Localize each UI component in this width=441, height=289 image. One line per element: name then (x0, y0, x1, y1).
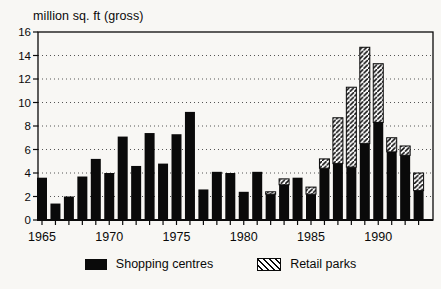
legend: Shopping centres Retail parks (0, 257, 441, 271)
bar-shopping-1993 (414, 191, 424, 220)
y-tick-label-4: 4 (25, 167, 32, 179)
y-tick-label-2: 2 (25, 191, 31, 203)
plot-svg: 0246810121416196519701975198019851990 (0, 0, 441, 254)
x-tick-label-1965: 1965 (28, 230, 56, 244)
y-tick-label-10: 10 (18, 97, 31, 109)
bar-shopping-1977 (198, 189, 208, 220)
bar-retail-1986 (319, 159, 329, 168)
x-axis: 196519701975198019851990 (28, 221, 419, 244)
y-tick-label-8: 8 (25, 120, 31, 132)
bar-shopping-1974 (158, 164, 168, 220)
x-tick-label-1990: 1990 (364, 230, 392, 244)
bar-chart-figure: million sq. ft (gross) 02468101214161965… (0, 0, 441, 289)
legend-item-shopping-centres: Shopping centres (85, 257, 213, 271)
bar-retail-1992 (400, 146, 410, 155)
bar-shopping-1976 (185, 112, 195, 220)
y-axis: 0246810121416 (18, 26, 38, 226)
bar-retail-1988 (346, 87, 356, 167)
bar-retail-1982 (266, 192, 276, 194)
y-tick-label-6: 6 (25, 144, 31, 156)
bar-retail-1985 (306, 187, 316, 194)
x-tick-label-1970: 1970 (95, 230, 123, 244)
bar-shopping-1967 (64, 197, 74, 221)
bar-shopping-1966 (50, 204, 60, 220)
bar-shopping-1985 (306, 194, 316, 220)
legend-item-retail-parks: Retail parks (257, 257, 356, 271)
bar-retail-1990 (373, 64, 383, 123)
bar-shopping-1984 (293, 178, 303, 220)
bar-shopping-1980 (239, 192, 249, 220)
bar-shopping-1978 (212, 172, 222, 220)
bar-shopping-1989 (360, 144, 370, 220)
y-tick-label-14: 14 (18, 50, 31, 62)
bar-shopping-1991 (387, 152, 397, 220)
bar-shopping-1968 (77, 177, 87, 220)
y-tick-label-12: 12 (18, 73, 31, 85)
bar-retail-1991 (387, 138, 397, 152)
bar-shopping-1982 (266, 194, 276, 220)
bar-retail-1993 (414, 173, 424, 191)
retail-parks-swatch-icon (257, 258, 281, 271)
bar-shopping-1975 (172, 134, 182, 220)
bar-shopping-1971 (118, 137, 128, 220)
bar-retail-1987 (333, 118, 343, 164)
bar-shopping-1979 (225, 173, 235, 220)
bar-shopping-1972 (131, 166, 141, 220)
shopping-centres-swatch-icon (85, 259, 107, 270)
bars (37, 47, 424, 220)
x-tick-label-1975: 1975 (163, 230, 191, 244)
bar-shopping-1973 (145, 133, 155, 220)
bar-shopping-1987 (333, 164, 343, 220)
bar-shopping-1970 (104, 173, 114, 220)
bar-shopping-1969 (91, 159, 101, 220)
bar-shopping-1988 (346, 167, 356, 220)
bar-shopping-1981 (252, 172, 262, 220)
legend-label-shopping-centres: Shopping centres (116, 257, 213, 271)
bar-shopping-1990 (373, 122, 383, 220)
bar-retail-1989 (360, 47, 370, 143)
x-tick-label-1985: 1985 (297, 230, 325, 244)
bar-retail-1983 (279, 179, 289, 185)
legend-label-retail-parks: Retail parks (290, 257, 356, 271)
y-tick-label-16: 16 (18, 26, 31, 38)
bar-shopping-1992 (400, 155, 410, 220)
x-tick-label-1980: 1980 (230, 230, 258, 244)
y-tick-label-0: 0 (25, 214, 31, 226)
bar-shopping-1986 (319, 168, 329, 220)
bar-shopping-1983 (279, 185, 289, 220)
